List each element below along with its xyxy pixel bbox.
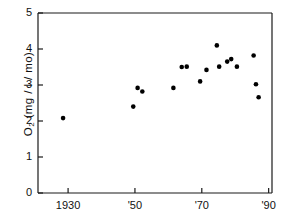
data-point <box>61 116 66 121</box>
data-point <box>215 43 220 48</box>
y-tick-label: 2 <box>6 114 32 126</box>
y-tick-label: 4 <box>6 42 32 54</box>
data-point <box>204 68 209 73</box>
y-tick-label: 0 <box>6 186 32 198</box>
plot-canvas <box>0 0 300 219</box>
data-point <box>131 104 136 109</box>
x-tick-label: 1930 <box>44 199 92 211</box>
data-point <box>225 59 230 64</box>
data-point <box>217 64 222 69</box>
x-tick-label: '50 <box>111 199 159 211</box>
scatter-chart: O2 (mg / l / mo) 012345 1930'50'70'90 <box>0 0 300 219</box>
y-tick-label: 1 <box>6 150 32 162</box>
data-point <box>256 95 261 100</box>
y-axis-label-prefix: O <box>22 127 34 136</box>
data-point <box>198 79 203 84</box>
y-tick-label: 3 <box>6 78 32 90</box>
data-point <box>254 82 259 87</box>
x-tick-label: '70 <box>178 199 226 211</box>
data-point <box>184 64 189 69</box>
data-point <box>135 86 140 91</box>
data-point <box>229 57 234 62</box>
data-point <box>140 89 145 94</box>
data-point <box>179 65 184 70</box>
x-tick-label: '90 <box>245 199 293 211</box>
y-tick-label: 5 <box>6 6 32 18</box>
data-point <box>171 86 176 91</box>
chart-page: O2 (mg / l / mo) 012345 1930'50'70'90 <box>0 0 300 219</box>
data-point <box>235 64 240 69</box>
data-point <box>251 53 256 58</box>
